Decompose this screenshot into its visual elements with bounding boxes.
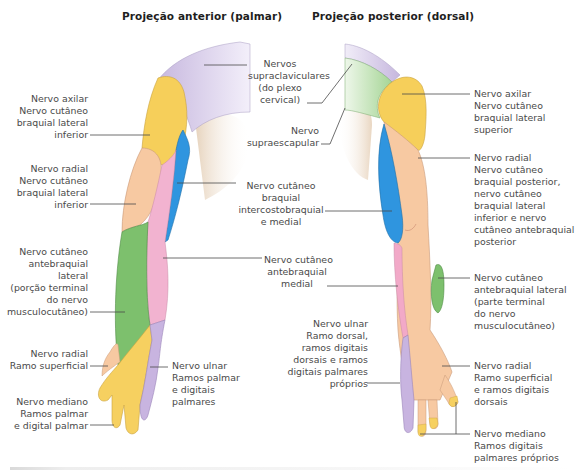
label-medial-brachial: Nervo cutâneo braquial intercostobraquia… (238, 180, 324, 228)
label-median-posterior: Nervo mediano Ramos digitais palmares pr… (474, 428, 559, 464)
label-axillary-anterior: Nervo axilar Nervo cutâneo braquial late… (17, 93, 88, 141)
label-suprascapular: Nervo supraescapular (247, 125, 319, 149)
label-radial-posterior: Nervo radial Nervo cutâneo braquial post… (474, 152, 574, 248)
label-medial-antebrachial: Nervo cutâneo antebraquial medial (264, 254, 330, 290)
label-lateral-antebrachial-anterior: Nervo cutâneo antebraquial lateral (porç… (7, 246, 88, 318)
label-ulnar-anterior: Nervo ulnar Ramos palmar e digitais palm… (172, 360, 240, 408)
label-radial-superficial-anterior: Nervo radial Ramo superficial (10, 348, 88, 372)
label-axillary-posterior: Nervo axilar Nervo cutâneo braquial late… (474, 88, 545, 136)
label-lateral-antebrachial-posterior: Nervo cutâneo antebraquial lateral (part… (474, 272, 567, 332)
dermatome-diagram: Projeção anterior (palmar) Projeção post… (0, 0, 581, 476)
label-supraclavicular: Nervos supraclaviculares (do plexo cervi… (248, 58, 312, 106)
region-lateral-antebrachial-posterior (431, 264, 444, 313)
label-ulnar-posterior: Nervo ulnar Ramo dorsal, ramos digitais … (288, 318, 368, 390)
figure-caption-cutoff (10, 467, 570, 470)
label-radial-superficial-posterior: Nervo radial Ramo superficial e ramos di… (474, 360, 552, 408)
label-radial-anterior: Nervo radial Nervo cutâneo braquial late… (17, 163, 88, 211)
label-median-anterior: Nervo mediano Ramos palmar e digital pal… (14, 396, 88, 432)
